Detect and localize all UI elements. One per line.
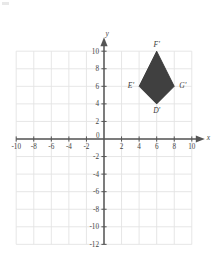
coordinate-plot-svg: -10-8-6-4-2246810108642-2-4-6-8-10-120 F… bbox=[0, 0, 217, 253]
x-tick-label: -8 bbox=[31, 143, 37, 151]
corner-artifact-mark bbox=[2, 2, 9, 5]
x-axis-arrowhead bbox=[196, 135, 205, 142]
vertex-label: G' bbox=[179, 81, 186, 90]
x-tick-label: 10 bbox=[188, 143, 196, 151]
kite-polygon bbox=[139, 51, 174, 104]
axes-group bbox=[16, 37, 205, 244]
vertex-label: E' bbox=[127, 81, 135, 90]
y-tick-label: -6 bbox=[93, 188, 99, 196]
y-tick-label: -2 bbox=[93, 153, 99, 161]
x-axis-label: x bbox=[206, 133, 211, 142]
y-tick-label: -4 bbox=[93, 171, 99, 179]
vertex-label: F' bbox=[153, 40, 161, 49]
y-tick-label: -12 bbox=[89, 241, 99, 249]
x-tick-label: 2 bbox=[120, 143, 124, 151]
x-tick-label: -2 bbox=[83, 143, 89, 151]
x-tick-label: 4 bbox=[137, 143, 141, 151]
y-tick-label: -10 bbox=[89, 223, 99, 231]
shaded-kite-group bbox=[139, 51, 174, 104]
y-tick-label: 4 bbox=[95, 100, 99, 108]
y-tick-label: 2 bbox=[95, 118, 99, 126]
y-axis-label: y bbox=[105, 29, 110, 38]
x-tick-label: -4 bbox=[66, 143, 72, 151]
y-axis-arrowhead bbox=[100, 37, 107, 46]
x-tick-label: 6 bbox=[155, 143, 159, 151]
vertex-label: D' bbox=[152, 106, 160, 115]
y-tick-label: 8 bbox=[95, 65, 99, 73]
y-tick-label: 10 bbox=[92, 48, 100, 56]
x-tick-label: -10 bbox=[11, 143, 21, 151]
y-tick-label: -8 bbox=[93, 206, 99, 214]
coordinate-plane-figure: -10-8-6-4-2246810108642-2-4-6-8-10-120 F… bbox=[0, 0, 217, 253]
origin-label: 0 bbox=[96, 132, 100, 140]
y-tick-label: 6 bbox=[95, 83, 99, 91]
x-tick-label: -6 bbox=[48, 143, 54, 151]
x-tick-label: 8 bbox=[172, 143, 176, 151]
